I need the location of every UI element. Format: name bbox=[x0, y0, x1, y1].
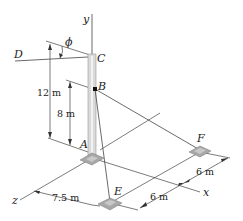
arrowhead-icon bbox=[68, 139, 72, 145]
z-dimension-tick bbox=[92, 205, 100, 206]
point-label-b: B bbox=[97, 80, 106, 93]
point-label-a: A bbox=[79, 138, 88, 151]
axis-label-z: z bbox=[11, 194, 18, 207]
diagram-canvas: y z x D C B A E F ϕ 12 m 8 m 7.5 m 6 m 6… bbox=[0, 0, 243, 221]
dimension-label-12m: 12 m bbox=[37, 87, 61, 98]
arrowhead-icon bbox=[34, 191, 40, 194]
point-label-e: E bbox=[113, 185, 122, 198]
point-b-marker bbox=[93, 87, 97, 91]
axis-label-x: x bbox=[203, 186, 210, 199]
point-label-c: C bbox=[97, 52, 106, 65]
arrowhead-icon bbox=[140, 202, 147, 208]
dimension-label-7-5m: 7.5 m bbox=[52, 192, 79, 203]
arrowhead-icon bbox=[178, 183, 184, 186]
cable-bf bbox=[95, 89, 200, 150]
arrowhead-icon bbox=[48, 132, 52, 138]
axis-label-y: y bbox=[82, 13, 90, 26]
dimension-label-6m-f: 6 m bbox=[196, 166, 214, 177]
cable-cd bbox=[15, 57, 88, 61]
arrowhead-icon bbox=[221, 158, 228, 162]
point-label-f: F bbox=[196, 132, 205, 145]
dimension-label-8m: 8 m bbox=[57, 108, 75, 119]
arrowhead-icon bbox=[68, 82, 72, 88]
ground-guide-line bbox=[100, 113, 160, 150]
arrowhead-icon bbox=[48, 44, 52, 50]
pole-highlight bbox=[91, 56, 93, 153]
statics-figure: y z x D C B A E F ϕ 12 m 8 m 7.5 m 6 m 6… bbox=[0, 0, 243, 221]
dimension-label-6m-e: 6 m bbox=[150, 191, 168, 202]
point-label-d: D bbox=[13, 48, 23, 61]
angle-label-phi: ϕ bbox=[65, 36, 73, 49]
